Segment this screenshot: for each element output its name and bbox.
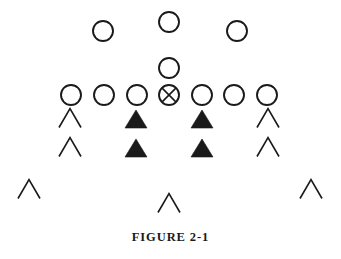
player-defensive-back-middle: [158, 194, 180, 213]
player-lineman-far-left: [61, 85, 81, 105]
player-def-chevron-right: [257, 109, 279, 128]
player-center: [159, 85, 179, 105]
player-circle-icon: [159, 58, 179, 78]
open-chevron-icon: [18, 180, 40, 199]
open-chevron-icon: [158, 194, 180, 213]
player-back-right: [227, 21, 247, 41]
group-defensive-second-row: [59, 138, 279, 158]
group-quarterback: [159, 58, 179, 78]
player-def-tackle-left: [125, 110, 147, 128]
player-circle-icon: [127, 85, 147, 105]
player-back-middle: [159, 12, 179, 32]
player-circle-icon: [224, 85, 244, 105]
player-defensive-back-right: [300, 180, 322, 199]
player-circle-icon: [192, 85, 212, 105]
player-circle-icon: [159, 12, 179, 32]
player-def-chevron-left: [59, 109, 81, 128]
player-lineman-right: [224, 85, 244, 105]
player-back-left: [93, 21, 113, 41]
player-circle-icon: [257, 85, 277, 105]
player-circle-icon: [94, 85, 114, 105]
football-formation-diagram: [0, 0, 341, 259]
shape-layer: [18, 12, 322, 213]
figure-container: FIGURE2-1: [0, 0, 341, 259]
open-chevron-icon: [300, 180, 322, 199]
open-chevron-icon: [257, 138, 279, 157]
player-circle-icon: [227, 21, 247, 41]
group-offensive-line: [61, 85, 277, 105]
player-lineman-left: [94, 85, 114, 105]
player-def2-tackle-left: [125, 139, 147, 157]
player-lineman-inner-left: [127, 85, 147, 105]
filled-triangle-icon: [125, 139, 147, 157]
open-chevron-icon: [59, 138, 81, 157]
player-def2-chevron-right: [257, 138, 279, 157]
figure-caption: FIGURE2-1: [0, 230, 341, 245]
player-defensive-back-left: [18, 180, 40, 199]
player-def2-tackle-right: [191, 139, 213, 157]
open-chevron-icon: [59, 109, 81, 128]
group-defensive-backfield: [18, 180, 322, 213]
filled-triangle-icon: [125, 110, 147, 128]
player-circle-icon: [93, 21, 113, 41]
player-def2-chevron-left: [59, 138, 81, 157]
filled-triangle-icon: [191, 139, 213, 157]
player-lineman-far-right: [257, 85, 277, 105]
player-lineman-inner-right: [192, 85, 212, 105]
open-chevron-icon: [257, 109, 279, 128]
player-def-tackle-right: [191, 110, 213, 128]
player-quarterback: [159, 58, 179, 78]
group-defensive-front-row: [59, 109, 279, 129]
figure-caption-number: 2-1: [190, 230, 209, 244]
filled-triangle-icon: [191, 110, 213, 128]
player-circle-icon: [61, 85, 81, 105]
group-offensive-backs-deep: [93, 12, 247, 41]
figure-caption-label: FIGURE: [132, 230, 186, 244]
